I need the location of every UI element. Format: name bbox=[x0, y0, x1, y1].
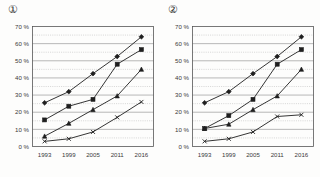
data-point-diamond bbox=[42, 100, 47, 105]
data-point-triangle bbox=[91, 107, 95, 111]
panel-label-1: ① bbox=[8, 3, 18, 16]
data-point-square bbox=[115, 62, 119, 66]
data-point-square bbox=[67, 104, 71, 108]
panel-label-2: ② bbox=[168, 3, 178, 16]
x-axis-tick-label: 2005 bbox=[86, 151, 100, 158]
data-point-square bbox=[299, 48, 303, 52]
y-axis-tick-label: 60 % bbox=[175, 40, 189, 47]
chart-panel-2: ② 0 %10 %20 %30 %40 %50 %60 %70 %1993199… bbox=[160, 0, 320, 177]
y-axis-tick-label: 10 % bbox=[175, 126, 189, 133]
y-axis-tick-label: 60 % bbox=[15, 40, 29, 47]
x-axis-tick-label: 2005 bbox=[246, 151, 260, 158]
series-square bbox=[203, 48, 304, 131]
series-line-square bbox=[205, 50, 302, 129]
x-axis-tick-label: 2016 bbox=[295, 151, 309, 158]
x-axis-tick-label: 1993 bbox=[38, 151, 52, 158]
y-axis-tick-label: 70 % bbox=[175, 23, 189, 30]
x-axis-tick-label: 1999 bbox=[222, 151, 236, 158]
series-line-triangle bbox=[45, 69, 142, 136]
data-point-triangle bbox=[42, 134, 46, 138]
chart-1: 0 %10 %20 %30 %40 %50 %60 %70 %199319992… bbox=[0, 18, 160, 177]
y-axis-tick-label: 30 % bbox=[175, 91, 189, 98]
chart-panels-container: ① 0 %10 %20 %30 %40 %50 %60 %70 %1993199… bbox=[0, 0, 320, 177]
y-axis-tick-label: 50 % bbox=[15, 57, 29, 64]
y-axis-tick-label: 40 % bbox=[175, 74, 189, 81]
x-axis-tick-label: 2016 bbox=[135, 151, 149, 158]
y-axis-tick-label: 20 % bbox=[15, 108, 29, 115]
data-point-x bbox=[115, 115, 119, 119]
y-axis-tick-label: 20 % bbox=[175, 108, 189, 115]
data-point-square bbox=[43, 118, 47, 122]
series-diamond bbox=[202, 34, 304, 105]
series-line-diamond bbox=[205, 37, 302, 103]
y-axis-tick-label: 0 % bbox=[178, 143, 189, 150]
chart-2-svg: 0 %10 %20 %30 %40 %50 %60 %70 %199319992… bbox=[160, 18, 320, 177]
x-axis-tick-label: 2011 bbox=[271, 151, 285, 158]
x-axis-tick-label: 1993 bbox=[198, 151, 212, 158]
y-axis-tick-label: 70 % bbox=[15, 23, 29, 30]
chart-1-svg: 0 %10 %20 %30 %40 %50 %60 %70 %199319992… bbox=[0, 18, 160, 177]
x-axis-tick-label: 1999 bbox=[62, 151, 76, 158]
chart-2: 0 %10 %20 %30 %40 %50 %60 %70 %199319992… bbox=[160, 18, 320, 177]
y-axis-tick-label: 40 % bbox=[15, 74, 29, 81]
data-point-square bbox=[251, 97, 255, 101]
series-line-diamond bbox=[45, 37, 142, 103]
y-axis-tick-label: 50 % bbox=[175, 57, 189, 64]
data-point-triangle bbox=[67, 121, 71, 125]
y-axis-tick-label: 30 % bbox=[15, 91, 29, 98]
data-point-diamond bbox=[202, 100, 207, 105]
series-diamond bbox=[42, 34, 144, 105]
data-point-square bbox=[275, 62, 279, 66]
x-axis-tick-label: 2011 bbox=[111, 151, 125, 158]
data-point-triangle bbox=[251, 107, 255, 111]
series-line-x bbox=[205, 115, 302, 142]
y-axis-tick-label: 0 % bbox=[18, 143, 29, 150]
series-x bbox=[43, 100, 144, 143]
data-point-square bbox=[227, 114, 231, 118]
data-point-square bbox=[91, 97, 95, 101]
data-point-square bbox=[139, 48, 143, 52]
data-point-x bbox=[139, 100, 143, 104]
chart-panel-1: ① 0 %10 %20 %30 %40 %50 %60 %70 %1993199… bbox=[0, 0, 160, 177]
series-x bbox=[203, 113, 304, 144]
y-axis-tick-label: 10 % bbox=[15, 126, 29, 133]
